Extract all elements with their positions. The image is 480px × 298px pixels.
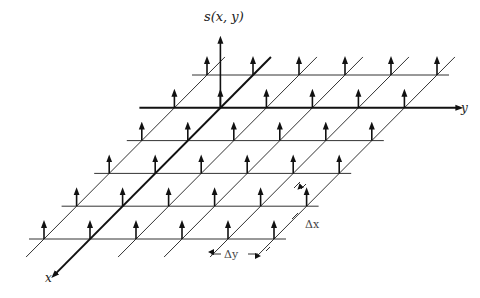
grid-column-line <box>26 57 225 257</box>
x-axis-line <box>54 57 271 275</box>
x-axis-label: x <box>45 271 52 285</box>
s-axis-label: s(x, y) <box>204 9 244 24</box>
y-axis-label: y <box>460 101 468 115</box>
grid-canvas: s(x, y) y x Δx Δy <box>0 0 480 298</box>
delta-x-label: Δx <box>305 218 320 231</box>
sampling-grid-figure: s(x, y) y x Δx Δy <box>0 0 480 298</box>
grid-column-line <box>118 57 317 257</box>
delta-y-label: Δy <box>224 248 239 261</box>
delta-x-arrow <box>301 184 306 189</box>
delta-y-arrow <box>266 247 270 251</box>
spacing-annotations <box>211 182 306 254</box>
delta-x-tick <box>294 182 300 188</box>
grid-column-line <box>256 57 455 257</box>
grid-column-line <box>164 57 363 257</box>
